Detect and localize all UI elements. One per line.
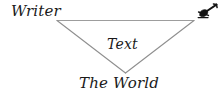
- quill-pen-icon: [196, 2, 220, 22]
- vertex-label-writer: Writer: [11, 4, 61, 19]
- vertex-label-the-world: The World: [79, 76, 159, 91]
- diagram-canvas: Writer Text The World: [0, 0, 224, 100]
- center-label-text: Text: [107, 37, 138, 51]
